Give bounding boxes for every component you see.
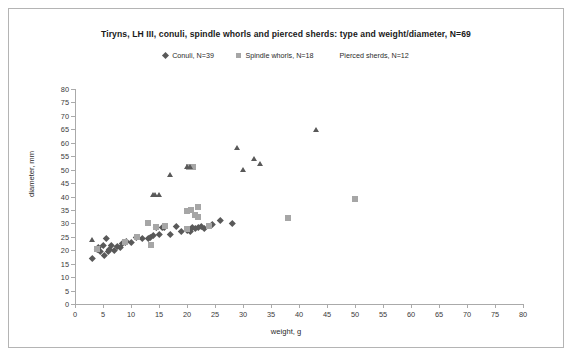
x-axis-tick bbox=[159, 304, 160, 308]
y-axis-tick-label: 50 bbox=[61, 165, 69, 174]
y-axis-tick-label: 20 bbox=[61, 246, 69, 255]
y-axis-tick bbox=[71, 156, 75, 157]
x-axis-tick-label: 65 bbox=[435, 310, 443, 319]
y-axis-tick-label: 5 bbox=[65, 286, 69, 295]
x-axis-tick bbox=[271, 304, 272, 308]
data-point-diamond bbox=[156, 231, 162, 237]
data-point-diamond bbox=[128, 239, 134, 245]
legend-item: Pierced sherds, N=12 bbox=[336, 51, 409, 60]
y-axis-title: diameter, mm bbox=[27, 151, 36, 197]
y-axis-tick bbox=[71, 223, 75, 224]
legend-marker-square-icon bbox=[236, 53, 242, 59]
x-axis-tick bbox=[299, 304, 300, 308]
x-axis-tick bbox=[383, 304, 384, 308]
data-point-square bbox=[352, 196, 358, 202]
data-point-diamond bbox=[167, 231, 173, 237]
data-point-triangle bbox=[167, 172, 173, 177]
x-axis-tick-label: 55 bbox=[379, 310, 387, 319]
y-axis-tick-label: 10 bbox=[61, 273, 69, 282]
data-point-square bbox=[285, 215, 291, 221]
y-axis-tick bbox=[71, 197, 75, 198]
x-axis-tick-label: 45 bbox=[323, 310, 331, 319]
data-point-diamond bbox=[89, 255, 95, 261]
plot-area: 0510152025303540455055606570758005101520… bbox=[75, 89, 523, 304]
data-point-square bbox=[162, 223, 168, 229]
y-axis-tick-label: 45 bbox=[61, 179, 69, 188]
x-axis-tick bbox=[187, 304, 188, 308]
legend-label: Pierced sherds, N=12 bbox=[340, 51, 409, 60]
x-axis-tick bbox=[523, 304, 524, 308]
data-point-square bbox=[148, 242, 154, 248]
y-axis-tick-label: 60 bbox=[61, 138, 69, 147]
y-axis-tick-label: 30 bbox=[61, 219, 69, 228]
chart-legend: Conuli, N=39Spindle whorls, N=18Pierced … bbox=[9, 51, 563, 60]
y-axis-tick bbox=[71, 170, 75, 171]
y-axis-tick-label: 80 bbox=[61, 85, 69, 94]
y-axis-tick-label: 40 bbox=[61, 192, 69, 201]
x-axis-tick-label: 15 bbox=[155, 310, 163, 319]
y-axis-tick-label: 55 bbox=[61, 152, 69, 161]
data-point-square bbox=[195, 214, 201, 220]
data-point-square bbox=[122, 239, 128, 245]
chart-page: Tiryns, LH III, conuli, spindle whorls a… bbox=[0, 0, 574, 357]
x-axis-tick-label: 80 bbox=[519, 310, 527, 319]
data-point-square bbox=[184, 226, 190, 232]
x-axis-tick-label: 75 bbox=[491, 310, 499, 319]
x-axis-tick bbox=[215, 304, 216, 308]
data-point-square bbox=[145, 220, 151, 226]
legend-item: Conuli, N=39 bbox=[163, 51, 214, 60]
x-axis-tick-label: 0 bbox=[73, 310, 77, 319]
y-axis-tick bbox=[71, 277, 75, 278]
y-axis-tick bbox=[71, 143, 75, 144]
data-point-diamond bbox=[217, 217, 223, 223]
legend-label: Spindle whorls, N=18 bbox=[245, 51, 313, 60]
x-axis-tick-label: 70 bbox=[463, 310, 471, 319]
data-point-triangle bbox=[89, 237, 95, 242]
x-axis-tick-label: 60 bbox=[407, 310, 415, 319]
x-axis-tick-label: 30 bbox=[239, 310, 247, 319]
data-point-triangle bbox=[240, 167, 246, 172]
chart-title: Tiryns, LH III, conuli, spindle whorls a… bbox=[9, 29, 563, 39]
y-axis-tick-label: 0 bbox=[65, 300, 69, 309]
data-point-square bbox=[206, 223, 212, 229]
data-point-diamond bbox=[103, 235, 109, 241]
data-point-triangle bbox=[251, 156, 257, 161]
data-point-triangle bbox=[234, 145, 240, 150]
y-axis-tick bbox=[71, 129, 75, 130]
x-axis-tick-label: 25 bbox=[211, 310, 219, 319]
x-axis-tick bbox=[411, 304, 412, 308]
x-axis-tick bbox=[355, 304, 356, 308]
x-axis-tick-label: 40 bbox=[295, 310, 303, 319]
y-axis-tick bbox=[71, 116, 75, 117]
y-axis-tick-label: 15 bbox=[61, 259, 69, 268]
y-axis-tick-label: 75 bbox=[61, 98, 69, 107]
y-axis-tick bbox=[71, 264, 75, 265]
x-axis-tick bbox=[103, 304, 104, 308]
x-axis-tick bbox=[131, 304, 132, 308]
y-axis-tick bbox=[71, 291, 75, 292]
y-axis-tick bbox=[71, 250, 75, 251]
y-axis-tick bbox=[71, 210, 75, 211]
y-axis-tick bbox=[71, 102, 75, 103]
x-axis-tick-label: 50 bbox=[351, 310, 359, 319]
data-point-diamond bbox=[229, 220, 235, 226]
data-point-triangle bbox=[187, 164, 193, 169]
x-axis-tick bbox=[243, 304, 244, 308]
x-axis-tick bbox=[439, 304, 440, 308]
y-axis-tick-label: 35 bbox=[61, 205, 69, 214]
chart-frame: Tiryns, LH III, conuli, spindle whorls a… bbox=[8, 8, 564, 348]
data-point-triangle bbox=[313, 127, 319, 132]
y-axis-tick-label: 65 bbox=[61, 125, 69, 134]
x-axis-tick-label: 10 bbox=[127, 310, 135, 319]
data-point-triangle bbox=[156, 192, 162, 197]
x-axis-tick-label: 35 bbox=[267, 310, 275, 319]
x-axis-tick bbox=[467, 304, 468, 308]
x-axis-tick-label: 5 bbox=[101, 310, 105, 319]
x-axis-tick bbox=[327, 304, 328, 308]
data-point-square bbox=[134, 234, 140, 240]
x-axis-tick bbox=[495, 304, 496, 308]
x-axis-tick bbox=[75, 304, 76, 308]
y-axis-tick bbox=[71, 183, 75, 184]
y-axis-tick-label: 25 bbox=[61, 232, 69, 241]
y-axis-tick-label: 70 bbox=[61, 111, 69, 120]
